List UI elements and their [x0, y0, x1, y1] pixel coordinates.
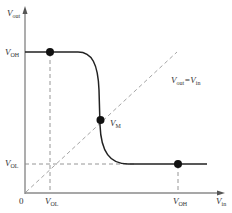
x-tick-vol: VOL — [45, 197, 59, 207]
x-axis-arrow-icon — [217, 191, 225, 196]
unity-gain-label: Vout=Vin — [171, 76, 200, 86]
x-axis-label: Vin — [216, 197, 226, 207]
origin-label: 0 — [19, 197, 24, 206]
vtc-plot — [0, 0, 232, 213]
y-tick-voh: VOH — [5, 48, 19, 58]
y-tick-vol: VOL — [5, 159, 19, 169]
vm-point — [97, 116, 105, 124]
transfer-curve — [25, 52, 207, 164]
vtc-diagram: Vout VOH VOL 0 VOL VOH Vin VM Vout=Vin — [0, 0, 232, 213]
vol-point — [174, 160, 182, 168]
voh-point — [46, 48, 54, 56]
vm-label: VM — [110, 119, 121, 129]
x-tick-voh: VOH — [173, 197, 187, 207]
y-axis-label: Vout — [7, 9, 20, 19]
y-axis-arrow-icon — [23, 6, 28, 14]
